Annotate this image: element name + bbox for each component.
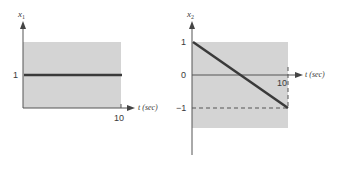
left-x-arrow-icon <box>127 105 135 111</box>
right-tick-label-0: 0 <box>181 70 186 80</box>
right-tick-label-1: 1 <box>181 37 186 47</box>
right-tick-label-minus1: −1 <box>176 103 186 113</box>
right-tick-label-10: 10 <box>277 78 287 88</box>
right-y-axis-label: x2 <box>187 9 194 22</box>
left-tick-label-10: 10 <box>114 113 124 123</box>
right-shaded-region <box>192 42 288 128</box>
right-x-arrow-icon <box>295 72 303 78</box>
left-y-axis-label: x1 <box>18 9 25 22</box>
right-x-axis-label: t (sec) <box>305 70 325 80</box>
right-y-arrow-icon <box>189 21 195 29</box>
left-tick-label-1: 1 <box>13 70 18 80</box>
left-x-axis-label: t (sec) <box>138 103 158 113</box>
left-y-arrow-icon <box>20 21 26 29</box>
